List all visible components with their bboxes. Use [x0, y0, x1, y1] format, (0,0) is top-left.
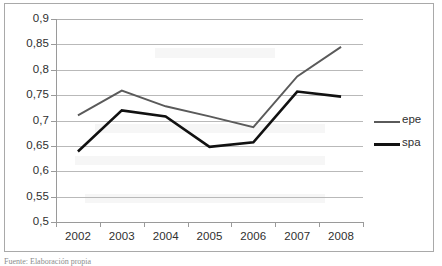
y-axis-tick-label: 0,65 — [26, 139, 49, 151]
series-container — [56, 19, 363, 222]
chart-legend: epespa — [374, 112, 442, 158]
chart-frame: 0,90,850,80,750,70,650,60,550,5 20022003… — [4, 3, 434, 252]
x-axis-tick — [363, 223, 364, 227]
y-axis-tick-label: 0,8 — [33, 63, 49, 75]
x-axis-tick-label: 2005 — [197, 230, 223, 242]
y-axis-tick — [51, 121, 56, 122]
series-line-spa — [78, 92, 341, 152]
x-axis-tick — [188, 223, 189, 227]
y-axis-tick — [51, 146, 56, 147]
x-axis-tick — [100, 223, 101, 227]
x-axis-tick-label: 2003 — [109, 230, 135, 242]
x-axis-tick — [56, 223, 57, 227]
legend-label: spa — [402, 136, 421, 148]
legend-line-swatch — [374, 121, 400, 123]
chart-caption: Fuente: Elaboración propia — [4, 258, 91, 266]
y-axis-tick — [51, 95, 56, 96]
x-axis-tick — [144, 223, 145, 227]
x-axis-tick-label: 2008 — [328, 230, 354, 242]
y-axis-tick — [51, 70, 56, 71]
x-axis-tick-label: 2007 — [284, 230, 310, 242]
legend-item-epe[interactable]: epe — [374, 112, 442, 135]
y-axis-tick-label: 0,6 — [33, 164, 49, 176]
x-axis-tick-label: 2004 — [153, 230, 179, 242]
y-axis-tick-label: 0,7 — [33, 114, 49, 126]
y-axis-tick-label: 0,5 — [33, 215, 49, 227]
x-axis-line — [56, 222, 364, 223]
legend-label: epe — [402, 113, 421, 125]
x-axis-tick-label: 2006 — [240, 230, 266, 242]
x-axis-tick — [319, 223, 320, 227]
y-axis-tick-label: 0,9 — [33, 12, 49, 24]
y-axis-tick-label: 0,85 — [26, 37, 49, 49]
x-axis-tick — [231, 223, 232, 227]
y-axis-tick — [51, 19, 56, 20]
x-axis-tick-label: 2002 — [65, 230, 91, 242]
y-axis-tick — [51, 44, 56, 45]
y-axis-tick — [51, 197, 56, 198]
y-axis-labels: 0,90,850,80,750,70,650,60,550,5 — [5, 4, 49, 253]
legend-item-spa[interactable]: spa — [374, 135, 442, 158]
y-axis-tick — [51, 171, 56, 172]
y-axis-tick-label: 0,75 — [26, 88, 49, 100]
x-axis-tick — [275, 223, 276, 227]
caption-clip: Fuente: Elaboración propia — [4, 258, 304, 266]
legend-line-swatch — [374, 143, 400, 146]
y-axis-tick-label: 0,55 — [26, 190, 49, 202]
